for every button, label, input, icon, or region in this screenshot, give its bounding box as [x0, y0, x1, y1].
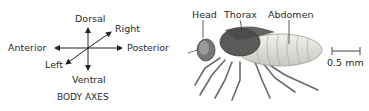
posterior-label: Posterior — [127, 43, 169, 53]
fly-illustration — [188, 26, 322, 100]
thorax-label: Thorax — [224, 10, 257, 20]
abdomen-label: Abdomen — [268, 10, 314, 20]
right-label: Right — [115, 24, 140, 34]
ventral-label: Ventral — [72, 75, 106, 85]
dorsal-label: Dorsal — [75, 14, 105, 24]
diagram-canvas — [0, 0, 369, 111]
anterior-label: Anterior — [8, 43, 46, 53]
scale-bar — [332, 47, 360, 55]
head-label: Head — [192, 10, 217, 20]
body-axes-caption: BODY AXES — [57, 93, 109, 102]
body-axes-arrows — [55, 28, 122, 70]
scale-bar-label: 0.5 mm — [327, 58, 364, 68]
left-label: Left — [45, 60, 63, 70]
